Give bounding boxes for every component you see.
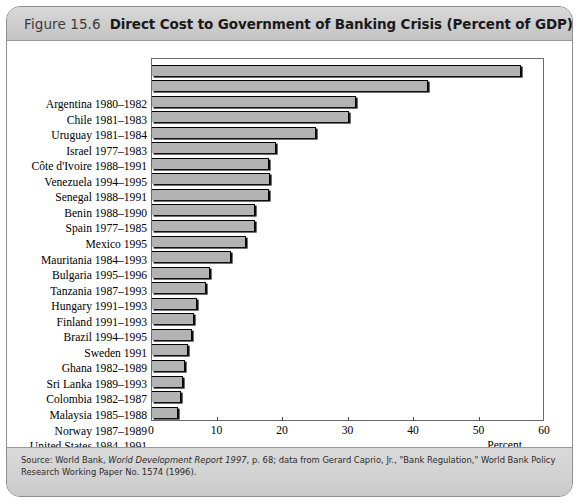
bar xyxy=(152,329,192,340)
x-tick-label: 40 xyxy=(407,424,419,437)
category-axis-labels: Argentina 1980–1982Chile 1981–1983Urugua… xyxy=(7,92,151,455)
category-label: Brazil 1994–1995 xyxy=(64,330,147,346)
bar xyxy=(152,189,269,200)
category-label: Mexico 1995 xyxy=(85,237,147,253)
tick-mark xyxy=(348,417,349,421)
x-tick-label: 50 xyxy=(473,424,485,437)
tick-mark xyxy=(282,417,283,421)
bar xyxy=(152,111,349,122)
chart-area: Argentina 1980–1982Chile 1981–1983Urugua… xyxy=(7,41,572,449)
tick-mark xyxy=(413,417,414,421)
bar xyxy=(152,251,231,262)
category-label: Sri Lanka 1989–1993 xyxy=(47,377,147,393)
figure-title: Direct Cost to Government of Banking Cri… xyxy=(110,16,573,32)
category-label: Malaysia 1985–1988 xyxy=(49,408,147,424)
category-label: Côte d'Ivoire 1988–1991 xyxy=(32,159,147,175)
x-tick-label: 30 xyxy=(342,424,354,437)
bar xyxy=(152,344,188,355)
bar xyxy=(152,80,428,91)
category-label: Israel 1977–1983 xyxy=(66,144,147,160)
bar xyxy=(152,236,246,247)
x-axis-ticks: 0102030405060 xyxy=(151,421,544,427)
category-label: Tanzania 1987–1993 xyxy=(50,284,147,300)
category-label: Ghana 1982–1989 xyxy=(62,361,147,377)
bar xyxy=(152,127,316,138)
bar xyxy=(152,96,356,107)
tick-mark xyxy=(479,417,480,421)
category-label: Chile 1981–1983 xyxy=(67,113,147,129)
bar xyxy=(152,391,181,402)
plot-frame xyxy=(151,58,544,421)
bar xyxy=(152,313,194,324)
bars-layer xyxy=(152,59,543,420)
bar xyxy=(152,204,255,215)
category-label: Hungary 1991–1993 xyxy=(51,299,147,315)
category-label: Senegal 1988–1991 xyxy=(55,190,147,206)
category-label: Venezuela 1994–1995 xyxy=(44,175,147,191)
category-label: Uruguay 1981–1984 xyxy=(51,128,147,144)
category-label: Spain 1977–1985 xyxy=(66,221,147,237)
bar xyxy=(152,220,255,231)
x-tick-label: 0 xyxy=(148,424,154,437)
bar xyxy=(152,298,197,309)
category-label: Colombia 1982–1987 xyxy=(46,392,147,408)
bar xyxy=(152,267,210,278)
figure-number: Figure 15.6 xyxy=(24,16,101,32)
category-label: Benin 1988–1990 xyxy=(64,206,147,222)
bar xyxy=(152,360,185,371)
source-publication-title: World Development Report 1997 xyxy=(108,455,246,465)
source-prefix: Source: World Bank, xyxy=(21,455,108,465)
category-label: Sweden 1991 xyxy=(84,346,147,362)
bar xyxy=(152,142,276,153)
category-label: Mauritania 1984–1993 xyxy=(41,253,147,269)
bar xyxy=(152,173,270,184)
source-panel: Source: World Bank, World Development Re… xyxy=(7,447,572,496)
bar xyxy=(152,282,206,293)
category-label: Argentina 1980–1982 xyxy=(46,97,147,113)
bar xyxy=(152,65,521,76)
x-tick-label: 10 xyxy=(211,424,223,437)
tick-mark xyxy=(217,417,218,421)
category-label: Finland 1991–1993 xyxy=(57,315,148,331)
bar xyxy=(152,376,183,387)
figure-card: Figure 15.6 Direct Cost to Government of… xyxy=(6,6,573,497)
source-note: Source: World Bank, World Development Re… xyxy=(21,454,558,478)
bar xyxy=(152,407,178,418)
x-tick-label: 60 xyxy=(538,424,550,437)
category-label: Bulgaria 1995–1996 xyxy=(52,268,147,284)
category-label: Norway 1987–1989 xyxy=(55,424,147,440)
figure-header: Figure 15.6 Direct Cost to Government of… xyxy=(7,7,572,41)
x-tick-label: 20 xyxy=(276,424,288,437)
bar xyxy=(152,158,269,169)
